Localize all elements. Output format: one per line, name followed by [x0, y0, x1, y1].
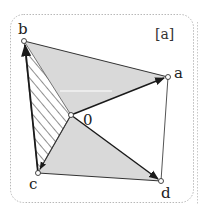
- point-b: [22, 39, 27, 44]
- label-0: 0: [83, 111, 93, 129]
- label-a: a: [174, 64, 183, 82]
- panel-label: [a]: [155, 26, 174, 42]
- label-b: b: [18, 20, 28, 38]
- point-d: [159, 179, 164, 184]
- label-c: c: [29, 175, 37, 193]
- point-0: [69, 113, 74, 118]
- edge-a-d: [161, 77, 168, 181]
- vector-diagram: b a 0 c d [a]: [0, 0, 201, 213]
- point-a: [166, 75, 171, 80]
- label-d: d: [161, 184, 171, 202]
